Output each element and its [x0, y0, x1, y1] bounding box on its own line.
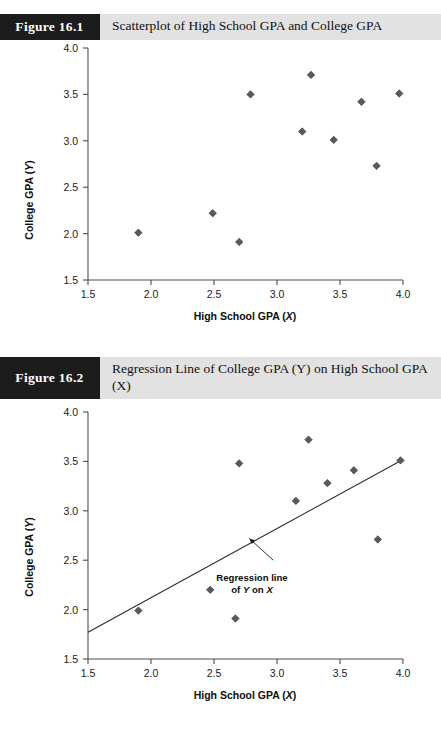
- chart-2-xtick-3.0: 3.0: [270, 667, 285, 679]
- chart-2-x-axis-title-tail: ): [293, 689, 297, 701]
- chart-2-xtick-4.0: 4.0: [396, 667, 411, 679]
- chart-1-ytick-1.5: 1.5: [63, 274, 78, 286]
- figure-16-1-block: Figure 16.1 Scatterplot of High School G…: [0, 14, 441, 330]
- chart-1-y-axis-title-tail: ): [23, 160, 35, 164]
- data-point: [135, 607, 142, 614]
- data-point: [236, 459, 243, 466]
- figure-16-2-caption: Regression Line of College GPA (Y) on Hi…: [100, 357, 441, 399]
- chart-2-x-axis-title-text: High School GPA (: [194, 689, 287, 701]
- chart-1-ytick-2.0: 2.0: [63, 228, 78, 240]
- data-point: [350, 466, 357, 473]
- data-point: [232, 615, 239, 622]
- chart-2-y-ticks: 4.0 3.5 3.0 2.5 2.0 1.5: [63, 406, 88, 665]
- data-point: [397, 456, 404, 463]
- chart-2-xtick-1.5: 1.5: [81, 667, 96, 679]
- chart-2-x-ticks: 1.5 2.0 2.5 3.0 3.5 4.0: [81, 659, 411, 679]
- chart-1-x-axis-title: High School GPA (X): [194, 310, 297, 322]
- chart-2-ytick-2.0: 2.0: [63, 603, 78, 615]
- regression-line: [88, 459, 403, 632]
- scatterplot-chart-2: College GPA (Y) 4.0 3.5 3.0 2.5 2.0 1.5: [0, 399, 441, 724]
- svg-text:College GPA (Y): College GPA (Y): [23, 160, 35, 239]
- data-point: [330, 136, 337, 143]
- data-point: [207, 586, 214, 593]
- data-point: [247, 91, 254, 98]
- chart-1-x-ticks: 1.5 2.0 2.5 3.0 3.5 4.0: [81, 280, 411, 300]
- data-point: [135, 229, 142, 236]
- chart-2-x-axis-title: High School GPA (X): [194, 689, 297, 701]
- chart-1-ytick-2.5: 2.5: [63, 181, 78, 193]
- chart-1-y-axis-title-text: College GPA (: [23, 170, 35, 239]
- chart-1-xtick-3.0: 3.0: [270, 288, 285, 300]
- chart-1-ytick-4.0: 4.0: [63, 42, 78, 54]
- regression-line-annotation-line2: of Y on X: [231, 584, 273, 595]
- chart-2-y-axis-title-text: College GPA (: [23, 527, 35, 596]
- data-point: [324, 479, 331, 486]
- chart-1-y-axis-title: College GPA (Y): [23, 160, 35, 239]
- svg-text:College GPA (Y): College GPA (Y): [23, 517, 35, 596]
- chart-2-ytick-2.5: 2.5: [63, 554, 78, 566]
- figure-16-2-number-badge: Figure 16.2: [0, 357, 100, 399]
- chart-1-xtick-1.5: 1.5: [81, 288, 96, 300]
- data-point: [292, 497, 299, 504]
- chart-2-xtick-2.0: 2.0: [144, 667, 159, 679]
- chart-1-xtick-3.5: 3.5: [333, 288, 348, 300]
- chart-1-xtick-2.5: 2.5: [207, 288, 222, 300]
- chart-2-ytick-3.5: 3.5: [63, 455, 78, 467]
- figure-16-2-block: Figure 16.2 Regression Line of College G…: [0, 357, 441, 724]
- annotation-of: of: [231, 584, 243, 595]
- data-point: [396, 90, 403, 97]
- regression-line-annotation-arrow: [249, 538, 273, 560]
- chart-2-y-axis-title-tail: ): [23, 517, 35, 521]
- chart-2-xtick-2.5: 2.5: [207, 667, 222, 679]
- chart-1-x-axis-title-text: High School GPA (: [194, 310, 287, 322]
- chart-2-xtick-3.5: 3.5: [333, 667, 348, 679]
- data-point: [305, 436, 312, 443]
- chart-1-xtick-2.0: 2.0: [144, 288, 159, 300]
- regression-line-annotation-line1: Regression line: [216, 572, 287, 583]
- chart-1-data-points: [135, 71, 403, 245]
- data-point: [299, 128, 306, 135]
- data-point: [307, 71, 314, 78]
- chart-2-ytick-4.0: 4.0: [63, 406, 78, 418]
- chart-1-y-ticks: 4.0 3.5 3.0 2.5 2.0 1.5: [63, 42, 88, 286]
- data-point: [358, 98, 365, 105]
- data-point: [373, 162, 380, 169]
- chart-2-ytick-3.0: 3.0: [63, 505, 78, 517]
- chart-1-ytick-3.0: 3.0: [63, 135, 78, 147]
- chart-1-x-axis-title-tail: ): [293, 310, 297, 322]
- figure-16-1-banner: Figure 16.1 Scatterplot of High School G…: [18, 14, 441, 40]
- data-point: [236, 238, 243, 245]
- chart-1-ytick-3.5: 3.5: [63, 88, 78, 100]
- figure-16-1-number-badge: Figure 16.1: [0, 14, 100, 40]
- annotation-x: X: [265, 584, 273, 595]
- figure-16-1-caption: Scatterplot of High School GPA and Colle…: [100, 14, 441, 40]
- chart-2-y-axis-title: College GPA (Y): [23, 517, 35, 596]
- data-point: [374, 536, 381, 543]
- scatterplot-chart-1: College GPA (Y) 4.0 3.5 3.0 2.5 2.0 1.5: [0, 40, 441, 330]
- chart-2-ytick-1.5: 1.5: [63, 653, 78, 665]
- figure-16-2-banner: Figure 16.2 Regression Line of College G…: [18, 357, 441, 399]
- chart-1-xtick-4.0: 4.0: [396, 288, 411, 300]
- data-point: [209, 209, 216, 216]
- annotation-on: on: [249, 584, 266, 595]
